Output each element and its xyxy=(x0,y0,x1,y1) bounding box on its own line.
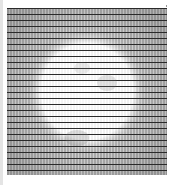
inner-dark-blob-top xyxy=(74,62,90,74)
horizontal-grid-lines xyxy=(7,8,167,175)
inner-dark-blob-right xyxy=(97,75,117,91)
left-edge-strip xyxy=(0,0,3,185)
hatched-grid-artwork xyxy=(7,8,167,175)
corner-mark xyxy=(166,5,167,7)
inner-dark-blob-left xyxy=(65,130,89,146)
